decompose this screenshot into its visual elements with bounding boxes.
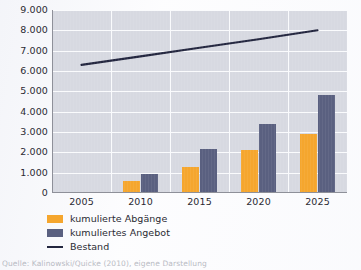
y-tick-label: 4.000 [2, 107, 48, 117]
y-tick-label: 0 [2, 188, 48, 198]
x-tick-label: 2025 [288, 196, 348, 207]
y-axis-labels: 9.0008.0007.0006.0005.0004.0003.0002.000… [0, 0, 48, 270]
legend-item: kumulierte Abgänge [47, 212, 277, 225]
y-axis-line [52, 10, 53, 193]
legend-swatch-line [47, 243, 63, 251]
y-tick-label: 2.000 [2, 147, 48, 157]
x-tick-label: 2020 [229, 196, 289, 207]
y-tick-label: 1.000 [2, 168, 48, 178]
legend-item: Bestand [47, 240, 277, 253]
y-tick-label: 6.000 [2, 66, 48, 76]
x-axis-line [52, 192, 347, 193]
plot-area [52, 10, 347, 193]
x-tick-label: 2015 [170, 196, 230, 207]
chart-figure: 9.0008.0007.0006.0005.0004.0003.0002.000… [0, 0, 361, 270]
legend-swatch-angebot [47, 229, 63, 237]
y-tick-label: 8.000 [2, 25, 48, 35]
x-tick-label: 2010 [111, 196, 171, 207]
source-caption: Quelle: Kalinowski/Quicke (2010), eigene… [2, 259, 207, 268]
bestand-line-series [52, 10, 347, 193]
y-tick-label: 7.000 [2, 46, 48, 56]
y-tick-label: 5.000 [2, 86, 48, 96]
legend-label: kumuliertes Angebot [70, 227, 170, 238]
legend-label: kumulierte Abgänge [70, 213, 167, 224]
legend-label: Bestand [70, 241, 109, 252]
x-axis-labels: 20052010201520202025 [52, 196, 347, 210]
chart-legend: kumulierte Abgängekumuliertes AngebotBes… [47, 212, 277, 254]
y-tick-label: 3.000 [2, 127, 48, 137]
y-tick-label: 9.000 [2, 5, 48, 15]
legend-item: kumuliertes Angebot [47, 226, 277, 239]
legend-swatch-abgaenge [47, 215, 63, 223]
bestand-polyline [82, 30, 318, 65]
x-tick-label: 2005 [52, 196, 112, 207]
